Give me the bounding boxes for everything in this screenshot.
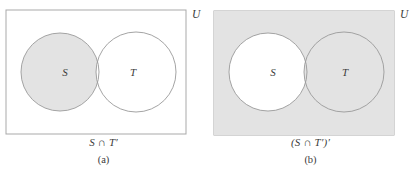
set-label-s-a: S: [62, 66, 68, 78]
venn-diagram-figure-pair: S T U S ∩ T′ (a): [0, 0, 415, 172]
venn-diagram-b: S T U: [207, 0, 415, 136]
set-label-s-b: S: [270, 66, 276, 78]
caption-expression-a: S ∩ T′: [0, 137, 207, 149]
universe-label-a: U: [192, 8, 201, 20]
venn-panel-a: S T U S ∩ T′ (a): [0, 0, 207, 172]
universe-label-b: U: [400, 8, 409, 20]
set-label-t-b: T: [342, 66, 349, 78]
venn-diagram-a: S T U: [0, 0, 207, 136]
caption-index-b: (b): [207, 154, 414, 165]
venn-panel-b: S T U (S ∩ T′)′ (b): [207, 0, 414, 172]
caption-expression-b: (S ∩ T′)′: [207, 137, 414, 149]
caption-index-a: (a): [0, 154, 207, 165]
set-label-t-a: T: [130, 66, 137, 78]
